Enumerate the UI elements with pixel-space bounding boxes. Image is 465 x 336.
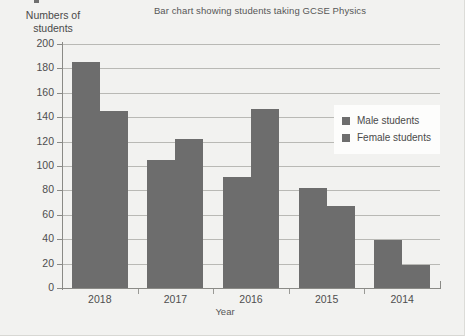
y-axis-tick-label: 60	[10, 208, 54, 220]
x-axis-tick	[289, 289, 290, 294]
bar	[100, 111, 128, 288]
bar	[402, 265, 430, 288]
bar	[72, 62, 100, 288]
y-axis-tick	[57, 117, 63, 118]
x-axis-tick	[138, 289, 139, 294]
y-axis-title-line-1: Numbers of	[10, 9, 96, 22]
y-axis-tick	[57, 93, 63, 94]
y-axis-tick	[57, 44, 63, 45]
bar	[223, 177, 251, 288]
y-axis-tick-label: 40	[10, 232, 54, 244]
bar	[147, 160, 175, 288]
y-axis-tick-label: 140	[10, 110, 54, 122]
x-axis-tick	[364, 289, 365, 294]
legend-swatch-icon	[342, 134, 350, 142]
legend-item-female: Female students	[342, 129, 431, 146]
y-axis-tick	[57, 264, 63, 265]
legend-swatch-icon	[342, 117, 350, 125]
x-axis-tick	[213, 289, 214, 294]
y-axis-tick-label: 0	[10, 281, 54, 293]
y-axis-tick	[57, 142, 63, 143]
gridline	[62, 68, 440, 69]
chart-legend: Male students Female students	[334, 105, 440, 154]
y-axis-tick	[57, 239, 63, 240]
bar	[327, 206, 355, 288]
y-axis-tick-label: 80	[10, 183, 54, 195]
plot-area	[62, 44, 440, 288]
y-axis-tick	[57, 288, 63, 289]
y-axis-tick-label: 20	[10, 257, 54, 269]
y-axis-tick	[57, 68, 63, 69]
x-axis-tick-label: 2015	[297, 293, 357, 305]
bar	[374, 240, 402, 288]
gridline	[62, 44, 440, 45]
legend-item-male: Male students	[342, 112, 431, 129]
gridline	[62, 93, 440, 94]
legend-label: Female students	[357, 132, 431, 143]
y-axis-tick	[57, 215, 63, 216]
x-axis-tick-label: 2014	[372, 293, 432, 305]
bar	[251, 109, 279, 288]
y-axis-tick-label: 200	[10, 37, 54, 49]
x-axis-title: Year	[190, 306, 260, 317]
x-axis-tick-label: 2017	[145, 293, 205, 305]
x-axis-tick-label: 2016	[221, 293, 281, 305]
x-axis-line	[62, 288, 441, 289]
y-axis-tick-label: 100	[10, 159, 54, 171]
y-axis-tick-label: 120	[10, 135, 54, 147]
bar	[299, 188, 327, 288]
y-axis-tick-label: 180	[10, 61, 54, 73]
y-axis-tick	[57, 190, 63, 191]
y-axis-title-line-2: students	[10, 22, 96, 35]
chart-screenshot: Bar chart showing students taking GCSE P…	[0, 0, 465, 336]
crop-mark	[34, 0, 39, 3]
y-axis-tick-label: 160	[10, 86, 54, 98]
chart-title: Bar chart showing students taking GCSE P…	[120, 5, 400, 16]
x-axis-right-end-tick	[440, 281, 441, 289]
bar	[175, 139, 203, 288]
y-axis-tick	[57, 166, 63, 167]
x-axis-tick-label: 2018	[70, 293, 130, 305]
legend-label: Male students	[357, 115, 419, 126]
y-axis-title: Numbers of students	[10, 9, 96, 35]
